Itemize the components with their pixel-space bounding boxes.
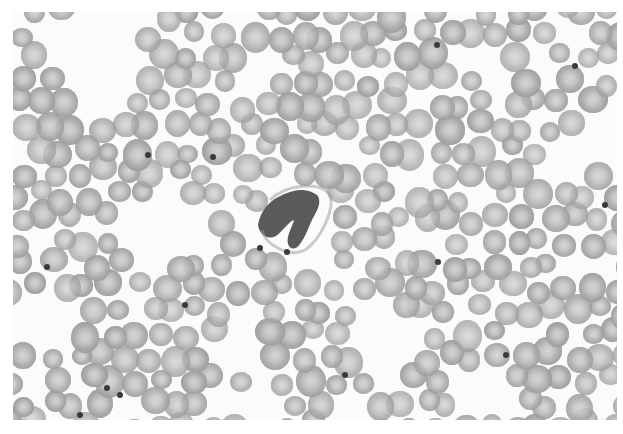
platelet: [210, 154, 216, 160]
platelet: [572, 63, 578, 69]
platelet: [117, 392, 123, 398]
platelet: [145, 152, 151, 158]
leukocyte-nucleus: [13, 12, 617, 420]
platelet: [503, 352, 509, 358]
platelet: [44, 264, 50, 270]
platelet: [434, 42, 440, 48]
platelet: [602, 202, 608, 208]
platelet: [182, 302, 188, 308]
blood-smear-micrograph: [13, 12, 617, 420]
platelet: [104, 385, 110, 391]
platelet: [284, 249, 290, 255]
platelet: [342, 372, 348, 378]
platelet: [257, 245, 263, 251]
platelet: [435, 259, 441, 265]
platelet: [77, 412, 83, 418]
